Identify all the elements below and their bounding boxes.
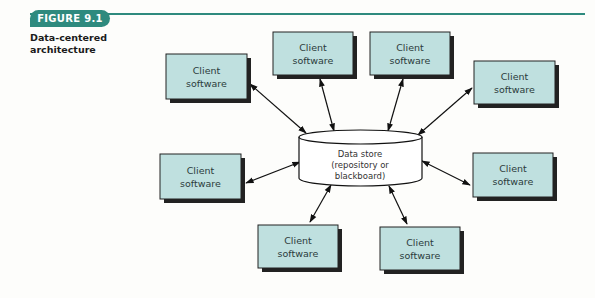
data-store-cylinder: Data store (repository or blackboard)	[299, 130, 422, 186]
client-box-5: Client software	[160, 154, 245, 203]
architecture-diagram: Data store (repository or blackboard) Cl…	[0, 0, 595, 298]
svg-text:software: software	[390, 55, 431, 66]
svg-text:software: software	[494, 84, 535, 95]
svg-text:Client: Client	[501, 71, 529, 82]
svg-text:software: software	[293, 55, 334, 66]
arrow-client-7	[310, 185, 331, 222]
arrow-client-6	[422, 161, 470, 185]
data-store-label-1: Data store	[338, 149, 383, 159]
data-store-label-3: blackboard)	[335, 171, 385, 181]
svg-text:software: software	[493, 176, 534, 187]
svg-text:Client: Client	[284, 235, 312, 246]
svg-text:software: software	[180, 178, 221, 189]
svg-text:software: software	[278, 248, 319, 259]
arrow-client-8	[389, 186, 407, 224]
arrow-client-3	[388, 79, 403, 131]
svg-text:Client: Client	[193, 65, 221, 76]
svg-text:Client: Client	[396, 42, 424, 53]
client-box-7: Client software	[258, 225, 342, 272]
client-box-6: Client software	[473, 153, 557, 201]
client-box-2: Client software	[273, 32, 357, 79]
svg-text:software: software	[400, 250, 441, 261]
svg-text:software: software	[186, 78, 227, 89]
arrow-client-1	[250, 84, 306, 133]
svg-text:Client: Client	[187, 165, 215, 176]
svg-text:Client: Client	[499, 163, 527, 174]
svg-text:Client: Client	[406, 237, 434, 248]
data-store-label-2: (repository or	[331, 160, 389, 170]
client-box-8: Client software	[380, 227, 464, 274]
arrow-client-2	[320, 79, 334, 131]
client-box-3: Client software	[370, 32, 454, 79]
client-box-1: Client software	[166, 54, 251, 103]
svg-text:Client: Client	[299, 42, 327, 53]
arrow-client-5	[246, 162, 300, 183]
client-box-4: Client software	[474, 61, 559, 108]
arrow-client-4	[418, 88, 472, 135]
